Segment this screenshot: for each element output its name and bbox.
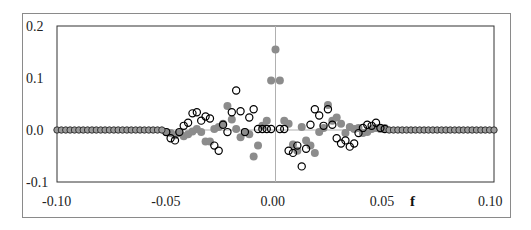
data-point-filled [228,116,236,124]
data-point-open [193,109,200,116]
data-point-open [198,117,205,124]
data-point-filled [267,77,275,85]
x-axis-ticks: -0.10-0.050.000.050.10 [42,194,503,209]
data-point-open [215,147,222,154]
data-point [159,127,165,133]
y-tick-label: 0.1 [26,71,44,86]
y-tick-label: -0.1 [26,175,48,190]
x-tick-label: -0.05 [151,194,180,209]
data-point-filled [337,120,345,128]
data-point-open [316,112,323,119]
data-point-filled [276,77,284,85]
data-point-open [307,121,314,128]
data-point-filled [197,128,205,136]
data-point-filled [263,117,271,125]
x-axis-label: f [410,193,416,209]
y-axis-ticks: 0.20.10.0-0.1 [26,19,48,190]
x-tick-label: -0.10 [42,194,71,209]
data-point-open [250,106,257,113]
data-point-open [228,109,235,116]
data-point-open [206,115,213,122]
scatter-chart: 0.20.10.0-0.1 -0.10-0.050.000.050.10 f [0,0,531,230]
data-point-filled [245,130,253,138]
y-tick-label: 0.0 [26,123,44,138]
data-point-filled [298,123,306,131]
data-point-filled [311,149,319,157]
data-point [491,127,497,133]
data-point-filled [285,120,293,128]
y-tick-label: 0.2 [26,19,44,34]
data-point-open [268,125,275,132]
data-point-filled [254,142,262,150]
data-point-open [298,163,305,170]
data-point-open [202,113,209,120]
x-tick-label: 0.05 [370,194,395,209]
data-point-open [246,114,253,121]
x-tick-label: 0.10 [478,194,503,209]
data-point-open [285,147,292,154]
data-point-open [237,108,244,115]
data-point-open [281,125,288,132]
data-point-filled [232,125,240,133]
data-point-open [233,87,240,94]
data-point-filled [206,137,214,145]
x-tick-label: 0.00 [261,194,286,209]
data-point-filled [272,45,280,53]
data-point-filled [250,153,258,161]
